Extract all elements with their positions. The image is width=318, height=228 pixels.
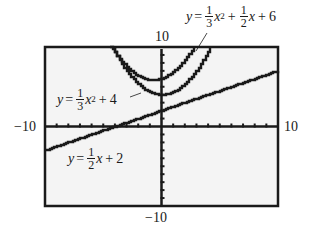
eq-equals: = <box>194 10 202 24</box>
fraction-one-third: 13 <box>205 4 213 29</box>
fraction-one-third: 13 <box>76 87 84 112</box>
fraction-one-half: 12 <box>87 146 95 171</box>
eq-plus: + <box>258 10 266 24</box>
eq-constant: 6 <box>269 10 276 24</box>
x-min-label: −10 <box>14 120 36 134</box>
equation-label-shifted-parabola: y = 13 x2 + 12 x + 6 <box>186 4 276 29</box>
eq-var-y: y <box>57 93 63 107</box>
eq-var-y: y <box>68 152 74 166</box>
eq-constant: 4 <box>110 93 117 107</box>
graphing-calculator-figure: 10 −10 −10 10 y = 13 x2 + 12 x + 6 y = 1… <box>0 0 318 228</box>
eq-exponent: 2 <box>91 95 96 104</box>
eq-plus: + <box>228 10 236 24</box>
eq-exponent: 2 <box>220 12 225 21</box>
eq-constant: 2 <box>116 152 123 166</box>
x-max-label: 10 <box>284 120 298 134</box>
equation-label-line: y = 12 x + 2 <box>68 146 123 171</box>
eq-var-x: x <box>249 10 255 24</box>
y-min-label: −10 <box>145 211 167 225</box>
eq-var-x: x <box>96 152 102 166</box>
eq-plus: + <box>99 93 107 107</box>
eq-var-y: y <box>186 10 192 24</box>
equation-label-parabola: y = 13 x2 + 4 <box>57 87 117 112</box>
fraction-one-half: 12 <box>240 4 248 29</box>
eq-plus: + <box>105 152 113 166</box>
eq-equals: = <box>65 93 73 107</box>
y-max-label: 10 <box>155 30 169 44</box>
eq-equals: = <box>76 152 84 166</box>
